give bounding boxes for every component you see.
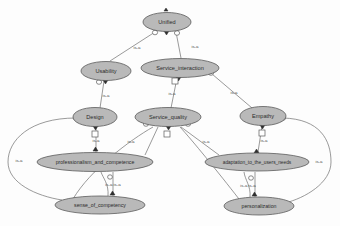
node-empathy[interactable]: Empathy	[240, 107, 286, 126]
node-shape	[141, 59, 219, 78]
arrowhead-icon	[252, 192, 257, 196]
relation-node-icon	[174, 31, 179, 36]
node-shape	[135, 108, 201, 127]
node-adaptation[interactable]: adaptation_to_the_users_needs	[205, 153, 309, 171]
edge-label-e2: is-a	[191, 44, 199, 49]
edge-label-e11: is-a	[315, 159, 323, 164]
edge-label-e4: is-a	[168, 91, 176, 96]
edge-usability-unified	[110, 32, 155, 61]
concept-hierarchy-graph: UnifiedUsabilityService_interactionDesig…	[0, 0, 340, 226]
node-shape	[240, 107, 286, 126]
node-shape	[224, 197, 294, 215]
edge-competency-professionalism	[101, 172, 108, 196]
relation-node-icon	[108, 175, 113, 179]
node-shape	[55, 196, 145, 214]
edge-service-interaction-unified	[176, 32, 181, 58]
edge-personalization-adaptation	[244, 172, 250, 197]
node-usability[interactable]: Usability	[81, 62, 131, 81]
relation-node-icon	[92, 131, 98, 137]
node-service_interaction[interactable]: Service_interaction	[141, 59, 219, 78]
node-layer: UnifiedUsabilityService_interactionDesig…	[37, 13, 309, 216]
arrowhead-icon	[93, 147, 98, 151]
diagram-canvas: UnifiedUsabilityService_interactionDesig…	[0, 0, 340, 226]
arrowhead-icon	[164, 8, 168, 11]
node-professionalism[interactable]: professionalism_and_competence	[37, 153, 153, 172]
node-personalization[interactable]: personalization	[224, 197, 294, 215]
edge-professionalism-service-quality	[145, 127, 158, 155]
node-shape	[73, 108, 117, 127]
edge-label-e3: is-a	[102, 93, 110, 98]
node-shape	[37, 153, 153, 172]
node-shape	[205, 153, 309, 171]
arrowhead-icon	[110, 191, 115, 195]
relation-node-icon	[164, 131, 170, 137]
relation-node-icon	[259, 130, 265, 136]
node-shape	[143, 13, 191, 32]
node-shape	[81, 62, 131, 81]
edge-adaptation-service-quality	[181, 127, 219, 155]
node-competency[interactable]: sense_of_competency	[55, 196, 145, 214]
edge-label-e9: is-a	[202, 139, 210, 144]
node-design[interactable]: Design	[73, 108, 117, 127]
edge-empathy-service-interaction	[212, 74, 252, 108]
node-unified[interactable]: Unified	[143, 13, 191, 32]
edge-design-usability	[100, 81, 104, 108]
node-service_quality[interactable]: Service_quality	[135, 108, 201, 127]
edge-label-e10: is-a	[260, 138, 268, 143]
edge-label-e8: is-a	[15, 158, 23, 163]
relation-node-icon	[172, 78, 178, 84]
relation-node-icon	[249, 176, 254, 180]
